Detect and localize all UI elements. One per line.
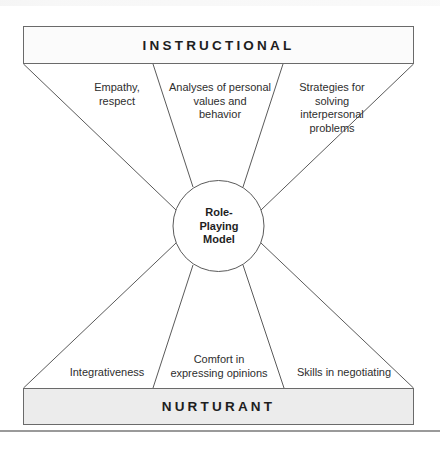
nurturant-effect-integrativeness: Integrativeness [52,366,162,380]
nurturant-box: NURTURANT [23,388,414,425]
instructional-effect-strategies: Strategies for solving interpersonal pro… [284,81,380,135]
instructional-effect-empathy: Empathy, respect [72,81,162,108]
nurturant-effect-comfort: Comfort in expressing opinions [163,353,275,380]
page-divider-rule [0,430,440,432]
instructional-box: INSTRUCTIONAL [23,26,414,64]
instructional-effect-analyses: Analyses of personal values and behavior [160,81,280,122]
role-playing-model-label: Role- Playing Model [173,206,265,247]
instructional-title: INSTRUCTIONAL [143,38,295,53]
nurturant-title: NURTURANT [162,399,276,414]
nurturant-effect-negotiating: Skills in negotiating [288,366,400,380]
